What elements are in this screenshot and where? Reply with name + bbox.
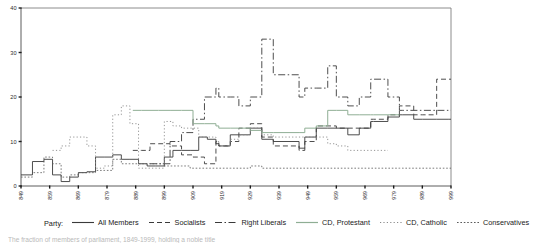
svg-text:40: 40	[10, 5, 16, 11]
svg-text:10: 10	[10, 139, 16, 145]
svg-text:1879: 1879	[104, 191, 110, 200]
svg-text:30: 30	[10, 50, 16, 56]
series-line-4	[53, 106, 388, 168]
legend-label: All Members	[98, 219, 139, 226]
legend-swatch-icon	[296, 219, 318, 226]
legend-label: Conservatives	[483, 219, 529, 226]
legend-entry: Socialists	[149, 219, 206, 226]
legend-swatch-icon	[215, 219, 237, 226]
svg-text:1939: 1939	[276, 191, 282, 200]
svg-text:20: 20	[10, 94, 16, 100]
series-line-2	[150, 39, 451, 164]
legend-label: Socialists	[175, 219, 206, 226]
legend-swatch-icon	[457, 219, 479, 226]
svg-text:1889: 1889	[133, 191, 139, 200]
legend-entry: CD, Catholic	[380, 219, 447, 226]
figure-caption: The fraction of members of parliament, 1…	[8, 236, 448, 243]
svg-text:1899: 1899	[161, 191, 167, 200]
legend-label: CD, Protestant	[322, 219, 370, 226]
svg-text:1969: 1969	[362, 191, 368, 200]
legend-swatch-icon	[380, 219, 402, 226]
legend-title: Party:	[44, 219, 63, 228]
svg-text:1909: 1909	[190, 191, 196, 200]
series-line-0	[21, 115, 451, 182]
svg-text:1999: 1999	[448, 191, 454, 200]
svg-text:1929: 1929	[247, 191, 253, 200]
y-axis-ticks: 010203040	[10, 5, 21, 189]
legend-swatch-icon	[149, 219, 171, 226]
legend-label: CD, Catholic	[406, 219, 447, 226]
legend-entry: CD, Protestant	[296, 219, 370, 226]
svg-text:1859: 1859	[47, 191, 53, 200]
plot-frame	[21, 8, 451, 186]
svg-text:1949: 1949	[305, 191, 311, 200]
legend-label: Right Liberals	[241, 219, 286, 226]
svg-text:0: 0	[13, 183, 16, 189]
series-line-5	[21, 157, 451, 177]
legend-entry: Right Liberals	[215, 219, 286, 226]
svg-text:1989: 1989	[419, 191, 425, 200]
svg-text:1959: 1959	[333, 191, 339, 200]
legend-entry: Conservatives	[457, 219, 529, 226]
svg-text:1979: 1979	[391, 191, 397, 200]
chart-legend: Party: All MembersSocialistsRight Libera…	[0, 214, 459, 232]
legend-entry: All Members	[72, 219, 139, 226]
svg-text:1849: 1849	[18, 191, 24, 200]
svg-text:1869: 1869	[75, 191, 81, 200]
legend-swatch-icon	[72, 219, 94, 226]
x-axis-ticks: 1849185918691879188918991909191919291939…	[18, 185, 454, 200]
line-chart-plot: 010203040 184918591869187918891899190919…	[0, 0, 459, 200]
series-line-1	[133, 79, 451, 164]
svg-text:1919: 1919	[219, 191, 225, 200]
series-group	[21, 39, 451, 181]
